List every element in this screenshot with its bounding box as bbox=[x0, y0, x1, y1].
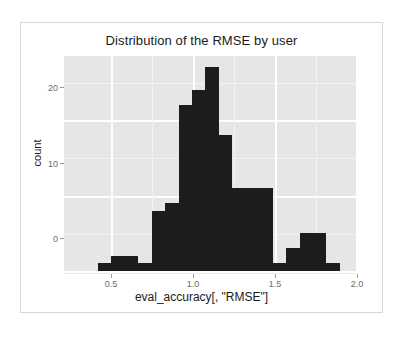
histogram-bar bbox=[313, 233, 326, 271]
y-tick-label-20: 20 bbox=[34, 83, 58, 93]
x-axis-title: eval_accuracy[, "RMSE"] bbox=[21, 290, 382, 304]
x-tick-label-0-5: 0.5 bbox=[96, 279, 126, 289]
screenshot-root: Distribution of the RMSE by user bbox=[0, 0, 402, 337]
histogram-bar bbox=[98, 263, 111, 271]
x-tick-mark-2-0 bbox=[357, 274, 358, 278]
histogram-bars bbox=[64, 56, 356, 274]
plot-image-frame: Distribution of the RMSE by user bbox=[20, 22, 383, 313]
histogram-bar bbox=[205, 67, 218, 271]
chart-title: Distribution of the RMSE by user bbox=[21, 33, 382, 48]
histogram-chart: Distribution of the RMSE by user bbox=[21, 23, 382, 312]
x-tick-mark-1-0 bbox=[193, 274, 194, 278]
histogram-bar bbox=[286, 248, 299, 271]
x-tick-label-1-0: 1.0 bbox=[178, 279, 208, 289]
y-tick-mark-10 bbox=[60, 163, 64, 164]
histogram-bar bbox=[152, 211, 165, 271]
histogram-bar bbox=[273, 263, 286, 271]
y-tick-label-0: 0 bbox=[34, 234, 58, 244]
histogram-bar bbox=[165, 203, 178, 271]
x-tick-mark-0-5 bbox=[111, 274, 112, 278]
histogram-bar bbox=[300, 233, 313, 271]
histogram-bar bbox=[192, 90, 205, 271]
histogram-bar bbox=[179, 105, 192, 271]
histogram-bar bbox=[232, 188, 245, 271]
histogram-bar bbox=[138, 263, 151, 271]
x-tick-mark-1-5 bbox=[275, 274, 276, 278]
histogram-bar bbox=[219, 135, 232, 271]
plot-panel bbox=[64, 56, 356, 274]
y-tick-mark-0 bbox=[60, 238, 64, 239]
x-tick-label-2-0: 2.0 bbox=[342, 279, 372, 289]
y-axis-title: count bbox=[31, 123, 43, 183]
histogram-bar bbox=[259, 188, 272, 271]
histogram-bar bbox=[246, 188, 259, 271]
histogram-bar bbox=[125, 256, 138, 271]
histogram-bar bbox=[326, 263, 339, 271]
x-tick-label-1-5: 1.5 bbox=[260, 279, 290, 289]
histogram-bar bbox=[111, 256, 124, 271]
y-tick-mark-20 bbox=[60, 87, 64, 88]
